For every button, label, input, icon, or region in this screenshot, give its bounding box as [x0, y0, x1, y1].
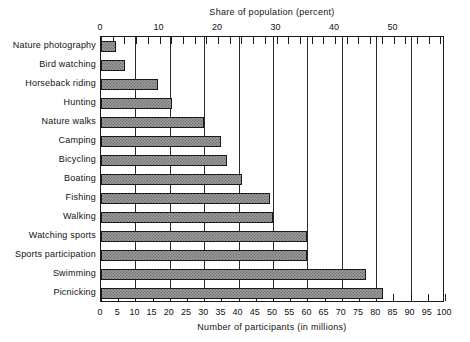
bar-row [101, 75, 445, 94]
bottom-tick-mark [445, 294, 446, 301]
bar [101, 155, 227, 166]
bottom-tick-label: 25 [181, 307, 191, 317]
bottom-tick-label: 55 [284, 307, 294, 317]
category-label: Picnicking [0, 287, 96, 297]
top-axis-title: Share of population (percent) [100, 7, 444, 17]
bar [101, 98, 172, 109]
bottom-tick-label: 30 [198, 307, 208, 317]
bottom-tick-label: 95 [422, 307, 432, 317]
bottom-tick-label: 80 [370, 307, 380, 317]
bar-row [101, 94, 445, 113]
plot-area [100, 36, 444, 302]
bottom-tick-label: 85 [387, 307, 397, 317]
bottom-tick-label: 100 [436, 307, 451, 317]
category-label: Nature photography [0, 40, 96, 50]
bar-chart: Share of population (percent) 0102030405… [0, 0, 470, 342]
bar [101, 250, 307, 261]
bar [101, 79, 158, 90]
category-label: Horseback riding [0, 78, 96, 88]
bottom-tick-label: 70 [336, 307, 346, 317]
top-tick-label: 50 [388, 22, 398, 32]
category-label: Bird watching [0, 59, 96, 69]
bottom-axis-title: Number of participants (in millions) [100, 322, 444, 332]
top-tick-label: 10 [153, 22, 163, 32]
bar-row [101, 151, 445, 170]
bar [101, 288, 383, 299]
top-tick-label: 0 [97, 22, 102, 32]
bottom-tick-label: 50 [267, 307, 277, 317]
bar-row [101, 189, 445, 208]
bar-row [101, 208, 445, 227]
category-label: Sports participation [0, 249, 96, 259]
category-label: Bicycling [0, 154, 96, 164]
bar [101, 269, 366, 280]
category-label: Boating [0, 173, 96, 183]
bottom-tick-label: 20 [164, 307, 174, 317]
category-label: Camping [0, 135, 96, 145]
bar [101, 41, 116, 52]
category-label: Watching sports [0, 230, 96, 240]
bottom-tick-label: 45 [250, 307, 260, 317]
category-label: Walking [0, 211, 96, 221]
bar [101, 117, 204, 128]
bar [101, 231, 307, 242]
bar-row [101, 56, 445, 75]
plot-inner [101, 37, 443, 301]
bar-row [101, 113, 445, 132]
bottom-tick-label: 0 [97, 307, 102, 317]
bottom-tick-label: 10 [129, 307, 139, 317]
bottom-tick-label: 75 [353, 307, 363, 317]
bar-row [101, 227, 445, 246]
category-label: Nature walks [0, 116, 96, 126]
top-tick-label: 40 [329, 22, 339, 32]
bar [101, 174, 242, 185]
bar-row [101, 170, 445, 189]
bar-row [101, 265, 445, 284]
bar-row [101, 246, 445, 265]
category-label: Fishing [0, 192, 96, 202]
top-tick-label: 30 [270, 22, 280, 32]
bottom-tick-label: 15 [147, 307, 157, 317]
bar [101, 212, 273, 223]
bar [101, 193, 270, 204]
bar [101, 136, 221, 147]
top-tick-label: 20 [212, 22, 222, 32]
bar-row [101, 37, 445, 56]
bottom-tick-label: 60 [301, 307, 311, 317]
bottom-tick-label: 90 [405, 307, 415, 317]
bottom-tick-label: 35 [215, 307, 225, 317]
bottom-tick-label: 40 [233, 307, 243, 317]
bottom-tick-label: 5 [115, 307, 120, 317]
category-label: Hunting [0, 97, 96, 107]
category-label: Swimming [0, 268, 96, 278]
bar [101, 60, 125, 71]
bar-row [101, 132, 445, 151]
bottom-tick-label: 65 [319, 307, 329, 317]
category-axis-labels: Nature photographyBird watchingHorseback… [0, 36, 96, 302]
bar-row [101, 284, 445, 303]
